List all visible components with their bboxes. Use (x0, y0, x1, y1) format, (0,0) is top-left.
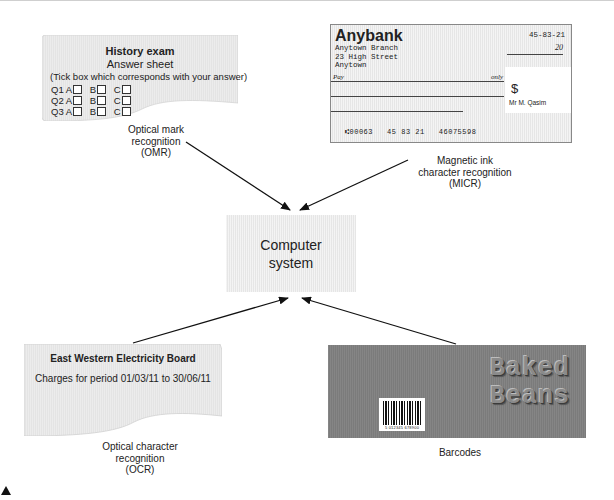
omr-arrow (186, 142, 290, 210)
micr-arrow (300, 160, 408, 210)
ocr-arrow (133, 298, 288, 343)
barcode-arrow (302, 298, 456, 344)
flow-arrows (0, 0, 614, 500)
triangle-marker-icon (1, 486, 11, 495)
